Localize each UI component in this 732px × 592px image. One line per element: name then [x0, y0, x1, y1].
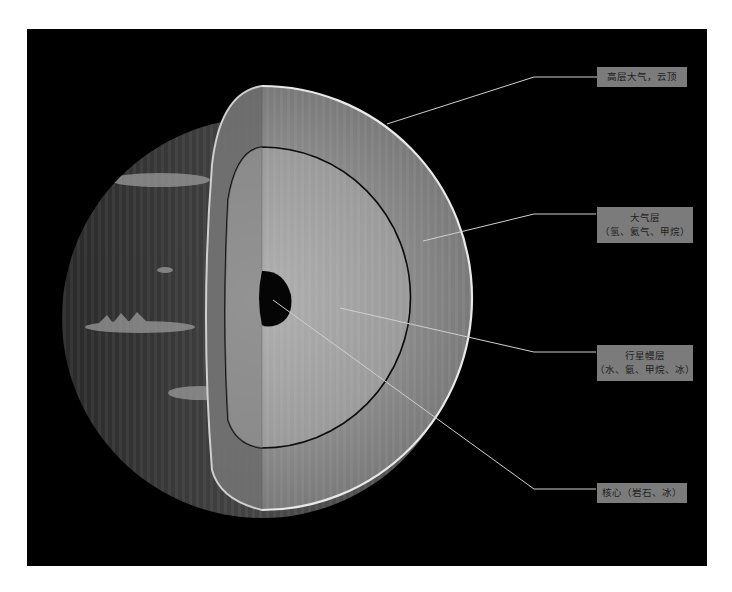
cutaway — [206, 86, 472, 510]
label-upper-atmosphere: 高层大气，云顶 — [597, 67, 687, 87]
leader-line-upper-atmosphere — [387, 77, 597, 124]
label-atmosphere: 大气层 （氢、氦气、甲烷） — [597, 207, 693, 243]
label-atmosphere-detail: （氢、氦气、甲烷） — [600, 225, 690, 239]
label-mantle-detail: （水、氨、甲烷、冰） — [595, 363, 695, 377]
label-core-text: 核心（岩石、冰） — [602, 486, 682, 500]
label-upper-atmosphere-text: 高层大气，云顶 — [607, 70, 677, 84]
label-mantle-title: 行星幔层 — [625, 349, 665, 363]
planet-cutaway-diagram — [0, 0, 732, 592]
label-mantle: 行星幔层 （水、氨、甲烷、冰） — [597, 345, 693, 381]
cloud-band — [157, 267, 173, 273]
label-atmosphere-title: 大气层 — [630, 211, 660, 225]
label-core: 核心（岩石、冰） — [597, 483, 687, 503]
cloud-band — [110, 173, 210, 187]
